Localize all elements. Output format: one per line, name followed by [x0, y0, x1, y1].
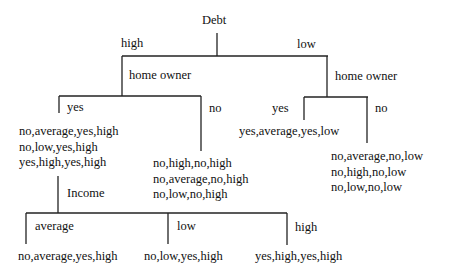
branch-label-income-high: high — [295, 220, 317, 235]
branch-label-income-average: average — [35, 219, 74, 234]
record: no,high,no,low — [331, 165, 423, 181]
record: no,average,no,low — [331, 149, 423, 165]
leaf-low-no: no,average,no,low no,high,no,low no,low,… — [331, 149, 423, 196]
branch-label-right-yes: yes — [272, 101, 289, 116]
leaf-high-no: no,high,no,high no,average,no,high no,lo… — [153, 156, 248, 203]
leaf-low-yes: yes,average,yes,low — [239, 124, 339, 140]
node-homeowner-right: home owner — [335, 69, 397, 84]
record: no,low,no,low — [331, 180, 423, 196]
leaf-income-low: no,low,yes,high — [144, 249, 223, 265]
record: no,low,yes,high — [19, 140, 119, 156]
record: yes,average,yes,low — [239, 124, 339, 140]
record: no,average,yes,high — [19, 124, 119, 140]
node-homeowner-left: home owner — [129, 68, 191, 83]
branch-label-debt-low: low — [297, 37, 316, 52]
decision-tree: Debt high low home owner yes no no,avera… — [0, 0, 452, 277]
node-income: Income — [67, 186, 104, 201]
leaf-income-high: yes,high,yes,high — [255, 249, 342, 265]
branch-label-right-no: no — [375, 101, 388, 116]
record: no,high,no,high — [153, 156, 248, 172]
record: no,average,no,high — [153, 172, 248, 188]
node-debt: Debt — [202, 13, 226, 28]
leaf-income-average: no,average,yes,high — [18, 249, 118, 265]
branch-label-left-yes: yes — [67, 100, 84, 115]
branch-label-left-no: no — [209, 101, 222, 116]
branch-label-debt-high: high — [121, 36, 143, 51]
branch-label-income-low: low — [177, 219, 196, 234]
record: no,low,no,high — [153, 187, 248, 203]
record: yes,high,yes,high — [19, 155, 119, 171]
leaf-high-yes: no,average,yes,high no,low,yes,high yes,… — [19, 124, 119, 171]
